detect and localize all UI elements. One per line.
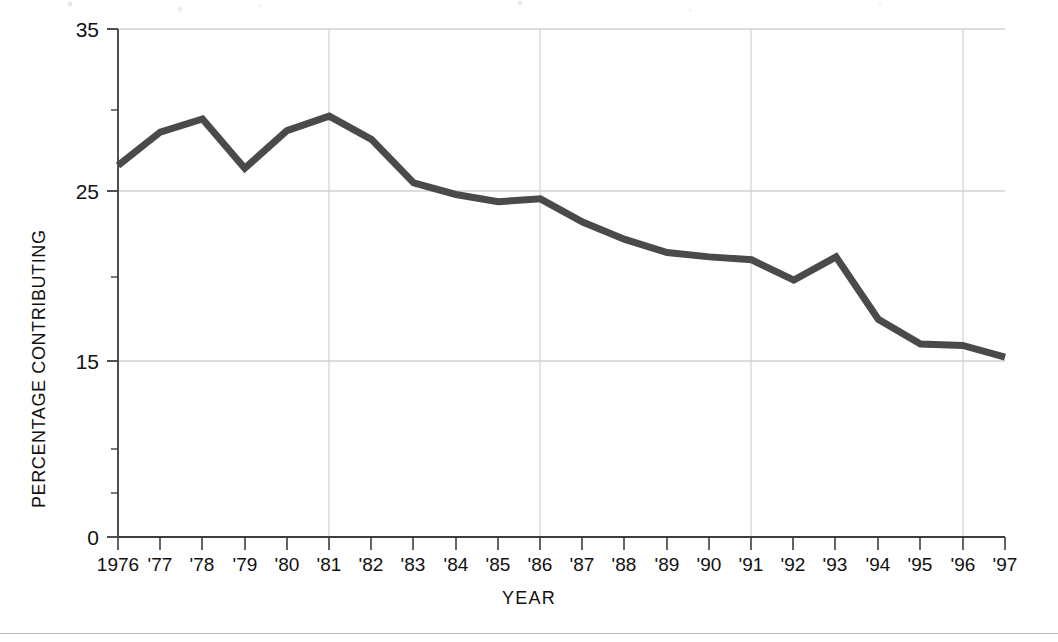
chart-page: 35 25 15 0	[0, 0, 1058, 642]
chart-canvas: 35 25 15 0	[0, 0, 1058, 642]
x-tick-label-81: '81	[317, 554, 342, 575]
x-tick-label-1976: 1976	[97, 554, 139, 575]
y-axis-title: PERCENTAGE CONTRIBUTING	[22, 0, 56, 508]
x-tick-label-96: '96	[951, 554, 976, 575]
y-tick-label-25: 25	[76, 180, 99, 203]
x-tick-label-86: '86	[528, 554, 553, 575]
x-axis-title: YEAR	[0, 588, 1058, 609]
x-tick-label-92: '92	[781, 554, 806, 575]
page-bottom-rule	[0, 633, 1058, 634]
axis-spines	[118, 29, 1005, 537]
data-series-line	[118, 116, 1005, 357]
x-tick-label-85: '85	[486, 554, 511, 575]
x-tick-label-78: '78	[190, 554, 215, 575]
y-tick-label-0: 0	[87, 526, 99, 549]
y-tick-labels: 35 25 15 0	[76, 18, 99, 549]
line-chart-figure: 35 25 15 0	[0, 0, 1058, 642]
x-tick-label-82: '82	[359, 554, 384, 575]
x-tick-label-79: '79	[233, 554, 258, 575]
x-tick-label-87: '87	[570, 554, 595, 575]
vertical-gridlines	[118, 29, 963, 537]
x-tick-label-97: '97	[993, 554, 1018, 575]
x-tick-label-77: '77	[148, 554, 173, 575]
y-tick-label-15: 15	[76, 350, 99, 373]
x-tick-label-89: '89	[655, 554, 680, 575]
x-tick-label-93: '93	[823, 554, 848, 575]
x-tick-label-83: '83	[401, 554, 426, 575]
x-tick-label-94: '94	[866, 554, 891, 575]
x-tick-label-90: '90	[697, 554, 722, 575]
y-tick-label-35: 35	[76, 18, 99, 41]
x-tick-label-88: '88	[612, 554, 637, 575]
x-tick-label-95: '95	[908, 554, 933, 575]
y-axis-major-ticks	[107, 29, 118, 537]
x-tick-label-84: '84	[444, 554, 469, 575]
y-axis-minor-ticks	[111, 110, 118, 493]
x-tick-label-91: '91	[739, 554, 764, 575]
x-tick-label-80: '80	[275, 554, 300, 575]
x-axis-ticks	[118, 537, 1005, 550]
x-tick-labels: 1976 '77 '78 '79 '80 '81 '82 '83 '84 '85…	[97, 554, 1018, 575]
